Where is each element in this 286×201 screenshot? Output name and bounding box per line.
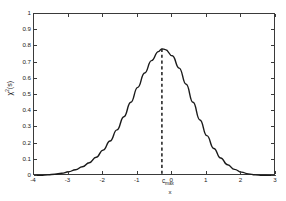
x-tick-mark <box>171 171 172 174</box>
y-axis-label-symbol: χ <box>6 92 13 96</box>
y-tick-mark <box>271 94 274 95</box>
plot-area <box>33 13 275 175</box>
x-tick-mark <box>137 171 138 174</box>
x-tick-mark <box>68 171 69 174</box>
x-tick-mark <box>206 14 207 17</box>
x-tick-label: 2 <box>239 177 242 183</box>
y-tick-mark <box>271 126 274 127</box>
y-tick-label: 0.3 <box>22 123 31 129</box>
y-tick-label: 0.7 <box>22 59 31 65</box>
y-tick-mark <box>34 175 37 176</box>
x-tick-mark <box>33 171 34 174</box>
y-tick-mark <box>271 159 274 160</box>
x-tick-mark <box>240 171 241 174</box>
y-axis-label: χ2(s) <box>5 71 13 105</box>
y-tick-mark <box>271 45 274 46</box>
y-tick-mark <box>34 29 37 30</box>
x-axis-label: x <box>169 189 172 195</box>
y-tick-mark <box>34 94 37 95</box>
x-tick-mark <box>102 171 103 174</box>
figure-container: 00.10.20.30.40.50.60.70.80.91 χ2(s) -4-3… <box>0 0 286 201</box>
x-tick-label: -1 <box>134 177 140 183</box>
y-axis-label-argument: (s) <box>6 81 13 89</box>
y-tick-mark <box>271 29 274 30</box>
x-tick-mark <box>275 171 276 174</box>
y-tick-mark <box>34 62 37 63</box>
chi-squared-curve <box>34 49 276 176</box>
x-axis-tick-labels: -4-3-2-10123 <box>0 177 286 189</box>
plot-svg <box>34 14 276 176</box>
x-tick-label: 1 <box>204 177 207 183</box>
y-axis-label-exponent: 2 <box>5 89 10 92</box>
y-tick-label: 0.4 <box>22 107 31 113</box>
y-tick-label: 0.8 <box>22 42 31 48</box>
x-tick-mark <box>171 14 172 17</box>
y-tick-mark <box>34 143 37 144</box>
y-tick-mark <box>34 159 37 160</box>
x-tick-mark <box>137 14 138 17</box>
x-tick-label: 3 <box>273 177 276 183</box>
y-tick-label: 0.1 <box>22 156 31 162</box>
y-tick-mark <box>271 110 274 111</box>
x-tick-mark <box>68 14 69 17</box>
x-tick-mark <box>275 14 276 17</box>
x-tick-label: -3 <box>65 177 71 183</box>
y-tick-mark <box>271 78 274 79</box>
y-tick-label: 1 <box>28 10 31 16</box>
x-tick-mark <box>240 14 241 17</box>
y-tick-mark <box>34 13 37 14</box>
y-tick-mark <box>34 126 37 127</box>
y-tick-mark <box>271 62 274 63</box>
y-tick-label: 0.2 <box>22 140 31 146</box>
x-tick-label: -2 <box>99 177 105 183</box>
x-tick-mark <box>206 171 207 174</box>
y-tick-mark <box>271 143 274 144</box>
y-tick-mark <box>34 45 37 46</box>
y-tick-label: 0.9 <box>22 26 31 32</box>
y-tick-mark <box>271 13 274 14</box>
c-max-subscript: max <box>165 181 174 186</box>
x-tick-label: -4 <box>30 177 36 183</box>
y-tick-label: 0.5 <box>22 91 31 97</box>
x-tick-mark <box>102 14 103 17</box>
y-tick-mark <box>34 78 37 79</box>
c-max-annotation-label: cmax <box>162 177 174 186</box>
x-tick-mark <box>33 14 34 17</box>
y-tick-mark <box>271 175 274 176</box>
y-tick-mark <box>34 110 37 111</box>
y-tick-label: 0.6 <box>22 75 31 81</box>
